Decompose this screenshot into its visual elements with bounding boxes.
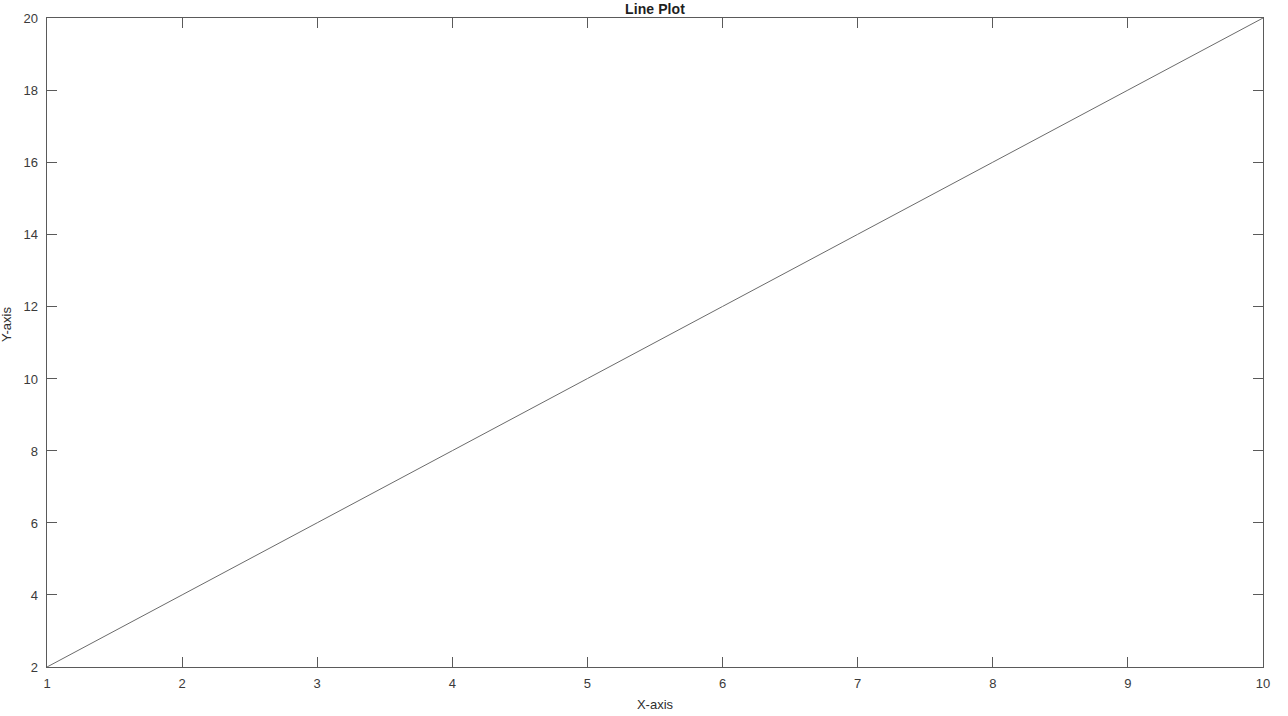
- y-tick-label: 4: [14, 588, 38, 601]
- y-axis-title: Y-axis: [0, 307, 13, 342]
- y-tick-label: 14: [14, 228, 38, 241]
- x-tick-label: 7: [854, 677, 861, 690]
- y-tick-label: 2: [14, 661, 38, 674]
- x-tick-label: 2: [178, 677, 185, 690]
- y-tick-label: 6: [14, 516, 38, 529]
- data-line: [47, 18, 1263, 667]
- y-tick-label: 12: [14, 300, 38, 313]
- x-tick-label: 4: [449, 677, 456, 690]
- y-tick-label: 16: [14, 156, 38, 169]
- plot-canvas: [47, 18, 1263, 667]
- data-series-group: [47, 18, 1263, 667]
- y-tick-label: 8: [14, 444, 38, 457]
- x-tick-label: 1: [43, 677, 50, 690]
- plot-area: [46, 17, 1264, 668]
- y-tick-label: 10: [14, 372, 38, 385]
- line-plot-figure: Line Plot 12345678910 2468101214161820 X…: [0, 0, 1288, 716]
- x-axis-title: X-axis: [46, 698, 1264, 711]
- chart-title: Line Plot: [46, 2, 1264, 16]
- x-tick-label: 10: [1256, 677, 1270, 690]
- x-tick-label: 3: [314, 677, 321, 690]
- y-tick-label: 20: [14, 12, 38, 25]
- x-tick-label: 8: [989, 677, 996, 690]
- x-tick-label: 5: [584, 677, 591, 690]
- y-tick-label: 18: [14, 84, 38, 97]
- x-tick-label: 6: [719, 677, 726, 690]
- x-tick-label: 9: [1124, 677, 1131, 690]
